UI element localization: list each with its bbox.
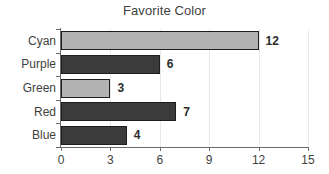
x-tick-label: 9 — [194, 153, 224, 167]
x-tick-mark — [110, 147, 111, 151]
y-tick-mark — [56, 53, 60, 54]
bar — [61, 126, 127, 145]
y-axis-category-labels: CyanPurpleGreenRedBlue — [0, 0, 56, 174]
category-label: Cyan — [4, 35, 56, 47]
value-label: 12 — [266, 35, 279, 47]
x-tick-label: 6 — [145, 153, 175, 167]
gridline — [259, 29, 260, 147]
bar — [61, 55, 160, 74]
x-tick-label: 3 — [95, 153, 125, 167]
y-tick-mark — [56, 29, 60, 30]
value-label: 6 — [167, 58, 174, 70]
value-label: 7 — [183, 106, 190, 118]
x-tick-label: 12 — [244, 153, 274, 167]
value-label: 4 — [134, 129, 141, 141]
x-tick-mark — [209, 147, 210, 151]
y-tick-mark — [56, 147, 60, 148]
category-label: Purple — [4, 58, 56, 70]
category-label: Blue — [4, 129, 56, 141]
y-tick-mark — [56, 100, 60, 101]
bar-chart: Favorite Color CyanPurpleGreenRedBlue 12… — [0, 0, 329, 174]
bar — [61, 102, 176, 121]
x-tick-label: 15 — [293, 153, 323, 167]
category-label: Red — [4, 106, 56, 118]
gridline — [308, 29, 309, 147]
category-label: Green — [4, 82, 56, 94]
x-tick-mark — [259, 147, 260, 151]
y-tick-mark — [56, 123, 60, 124]
x-tick-label: 0 — [46, 153, 76, 167]
x-tick-mark — [160, 147, 161, 151]
bar — [61, 79, 110, 98]
x-axis-line — [60, 147, 309, 148]
x-tick-mark — [61, 147, 62, 151]
x-tick-mark — [308, 147, 309, 151]
y-tick-mark — [56, 76, 60, 77]
value-label: 3 — [117, 82, 124, 94]
bar — [61, 31, 259, 50]
